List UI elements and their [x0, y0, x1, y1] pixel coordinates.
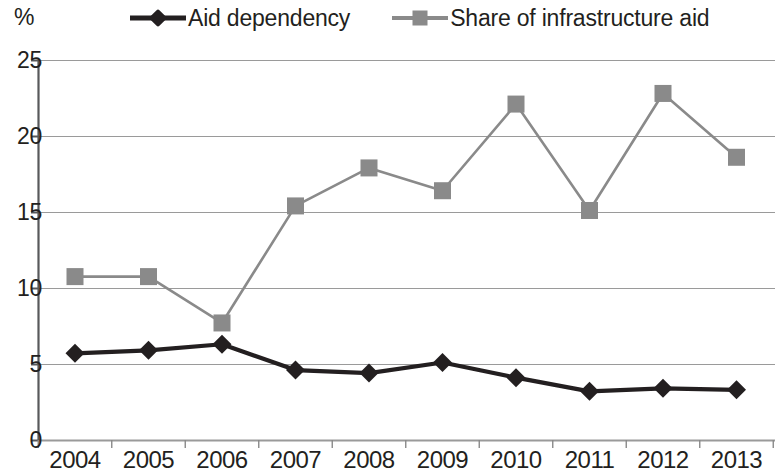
diamond-marker-icon — [286, 361, 305, 380]
diamond-marker-icon — [580, 382, 599, 401]
y-axis-tick-label: 0 — [0, 427, 42, 454]
square-marker-icon — [434, 182, 451, 199]
x-axis-tick-label: 2006 — [196, 446, 247, 473]
diamond-marker-icon — [213, 335, 232, 354]
square-marker-icon — [508, 96, 525, 113]
y-axis-tick-label: 25 — [0, 47, 42, 74]
diamond-marker-icon — [654, 379, 673, 398]
diamond-marker-icon — [139, 341, 158, 360]
series-square — [67, 85, 746, 332]
chart-page: % Aid dependency Share of infrastructure… — [0, 0, 775, 473]
x-axis-tick-label: 2007 — [270, 446, 321, 473]
square-marker-icon — [140, 268, 157, 285]
x-axis-tick-label: 2010 — [490, 446, 541, 473]
square-marker-icon — [214, 314, 231, 331]
y-axis-tick-label: 20 — [0, 123, 42, 150]
square-marker-icon — [581, 202, 598, 219]
x-axis-tick-label: 2009 — [417, 446, 468, 473]
chart-svg — [0, 0, 775, 473]
diamond-marker-icon — [727, 380, 746, 399]
series-line — [75, 344, 737, 391]
square-marker-icon — [287, 197, 304, 214]
y-axis-tick-label: 10 — [0, 275, 42, 302]
square-marker-icon — [67, 268, 84, 285]
diamond-marker-icon — [66, 344, 85, 363]
square-marker-icon — [361, 159, 378, 176]
x-axis-tick-label: 2005 — [123, 446, 174, 473]
y-axis-tick-label: 15 — [0, 199, 42, 226]
square-marker-icon — [655, 85, 672, 102]
diamond-marker-icon — [433, 353, 452, 372]
x-axis-tick-label: 2012 — [637, 446, 688, 473]
x-axis-tick-label: 2004 — [49, 446, 100, 473]
x-axis-tick-label: 2008 — [343, 446, 394, 473]
x-axis-tick-label: 2011 — [565, 446, 615, 473]
series-diamond — [66, 335, 747, 401]
chart-plot-area — [0, 0, 775, 473]
square-marker-icon — [728, 149, 745, 166]
diamond-marker-icon — [507, 368, 526, 387]
y-axis-tick-label: 5 — [0, 351, 42, 378]
diamond-marker-icon — [360, 364, 379, 383]
x-axis-tick-label: 2013 — [711, 446, 762, 473]
